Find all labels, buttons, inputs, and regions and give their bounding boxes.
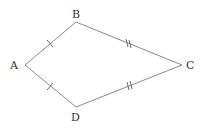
vertex-label-d: D (71, 111, 80, 124)
kite-diagram: A B C D (0, 0, 202, 134)
vertex-label-c: C (186, 59, 194, 72)
vertex-label-b: B (72, 8, 80, 21)
kite-outline (25, 22, 182, 107)
vertex-label-a: A (9, 59, 19, 72)
